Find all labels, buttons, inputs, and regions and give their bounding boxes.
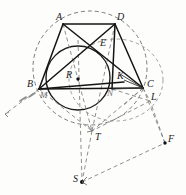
label-point-d: D bbox=[117, 12, 124, 22]
dashed-c-l bbox=[143, 88, 150, 101]
dashed-construction-lines bbox=[5, 24, 165, 182]
label-point-c: C bbox=[147, 79, 154, 89]
dashed-s-f bbox=[82, 143, 165, 182]
dot-r bbox=[76, 77, 79, 80]
dashed-t-s bbox=[82, 131, 92, 182]
label-point-r: R bbox=[66, 70, 72, 80]
label-point-m: M bbox=[40, 90, 48, 100]
arrowhead-lower-left bbox=[5, 112, 9, 117]
label-point-e: E bbox=[100, 38, 106, 48]
ray-b-lower-left bbox=[5, 89, 39, 114]
label-point-k: K bbox=[117, 71, 124, 81]
geometry-figure: A D E B C R K M N L T F S bbox=[0, 0, 186, 195]
label-point-f: F bbox=[168, 134, 174, 144]
dashed-vertical-r-s bbox=[78, 40, 82, 182]
label-point-a: A bbox=[56, 12, 62, 22]
dot-f bbox=[163, 141, 166, 144]
geometry-canvas bbox=[0, 0, 186, 195]
label-point-n: N bbox=[107, 88, 113, 98]
tick-mark-inner bbox=[29, 93, 35, 97]
label-point-l: L bbox=[151, 92, 157, 102]
label-point-s: S bbox=[73, 174, 78, 184]
label-point-b: B bbox=[27, 79, 33, 89]
label-point-t: T bbox=[95, 132, 101, 142]
arrowheads bbox=[5, 112, 92, 185]
dashed-c-angle-mark bbox=[124, 88, 143, 105]
segment-d-n bbox=[112, 24, 115, 89]
